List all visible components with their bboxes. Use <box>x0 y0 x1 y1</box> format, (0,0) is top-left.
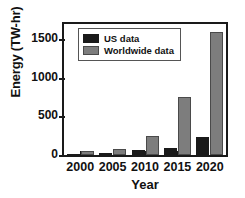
bar-worldwide-2015 <box>178 97 191 155</box>
y-tick-label: 0 <box>51 147 58 161</box>
y-axis-title: Energy (TW-hr) <box>8 0 24 112</box>
legend-label-worldwide: Worldwide data <box>104 46 174 56</box>
bar-worldwide-2010 <box>146 136 159 155</box>
x-tick-label-2020: 2020 <box>196 160 224 174</box>
x-tick-label-2015: 2015 <box>163 160 191 174</box>
bar-us-2005 <box>99 153 112 155</box>
chart-legend: US data Worldwide data <box>78 28 181 61</box>
x-tick-label-2005: 2005 <box>99 160 127 174</box>
bar-us-2010 <box>132 150 145 155</box>
bar-worldwide-2000 <box>81 151 94 155</box>
legend-item-us: US data <box>83 33 174 44</box>
bar-worldwide-2005 <box>113 149 126 155</box>
plot-area: 050010001500 US data Worldwide data <box>62 22 228 157</box>
legend-swatch-us-icon <box>83 34 99 43</box>
y-tick-mark <box>59 155 65 157</box>
x-tick-label-2010: 2010 <box>131 160 159 174</box>
legend-item-worldwide: Worldwide data <box>83 45 174 56</box>
bar-us-2020 <box>196 137 209 155</box>
legend-label-us: US data <box>104 34 139 44</box>
legend-swatch-worldwide-icon <box>83 46 99 55</box>
bar-worldwide-2020 <box>210 32 223 155</box>
bar-us-2015 <box>164 148 177 155</box>
y-tick-label: 1000 <box>31 70 58 84</box>
bar-us-2000 <box>67 154 80 155</box>
y-tick-label: 500 <box>38 108 58 122</box>
y-tick-label: 1500 <box>31 31 58 45</box>
y-tick-mark <box>59 116 65 118</box>
x-axis-title: Year <box>62 177 228 192</box>
bar-chart-figure: Energy (TW-hr) 050010001500 US data Worl… <box>0 0 245 198</box>
x-tick-label-2000: 2000 <box>66 160 94 174</box>
y-tick-mark <box>59 39 65 41</box>
y-tick-mark <box>59 78 65 80</box>
